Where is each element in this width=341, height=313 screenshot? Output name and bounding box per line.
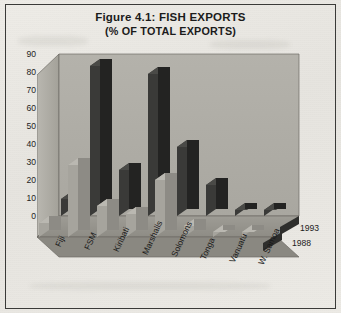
y-axis-tick: 20 [14,175,36,185]
legend-label-1993: 1993 [300,223,319,233]
chart-plot-area: 9080706050403020100 [8,44,333,306]
y-axis-tick: 50 [14,121,36,131]
x-axis-label-vanuatu: Vanuatu [227,231,249,263]
y-axis-tick: 30 [14,157,36,167]
figure-title-line1: Figure 4.1: FISH EXPORTS [0,11,341,25]
y-axis-tick: 80 [14,67,36,77]
figure-title: Figure 4.1: FISH EXPORTS (% OF TOTAL EXP… [0,11,341,38]
x-axis-label-fsm: FSM [82,230,99,250]
y-axis-tick: 40 [14,139,36,149]
y-axis-tick: 60 [14,103,36,113]
y-axis: 9080706050403020100 [12,44,36,306]
legend-label-1988: 1988 [292,238,311,248]
x-axis-label-marshalls: Marshalls [140,219,164,256]
y-axis-tick: 90 [14,49,36,59]
x-axis-label-tonga: Tonga [198,236,217,261]
x-axis-label-fiji: Fiji [53,234,67,248]
y-axis-tick: 70 [14,85,36,95]
y-axis-tick: 10 [14,193,36,203]
x-axis-label-kiribati: Kiribati [111,226,131,254]
x-axis-label-wsamoa: W. Samoa [256,227,282,267]
y-axis-tick: 0 [14,211,36,221]
figure-title-line2: (% OF TOTAL EXPORTS) [0,25,341,39]
x-axis-label-solomons: Solomons [169,220,194,258]
x-axis-category-labels: FijiFSMKiribatiMarshallsSolomonsTongaVan… [37,44,333,306]
